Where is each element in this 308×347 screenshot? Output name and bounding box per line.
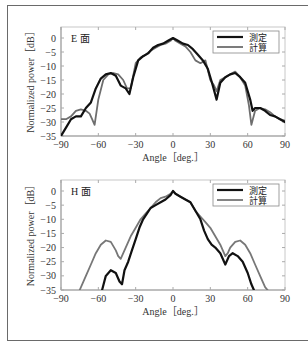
y-tick-label: −20 bbox=[40, 242, 56, 253]
x-tick-label: −30 bbox=[128, 139, 144, 150]
x-tick-label: −90 bbox=[53, 293, 69, 304]
y-tick-label: −20 bbox=[40, 89, 56, 100]
x-tick-label: −60 bbox=[91, 139, 107, 150]
y-tick-label: −5 bbox=[45, 200, 56, 211]
legend-label: 測定 bbox=[249, 32, 267, 43]
x-tick-label: 90 bbox=[280, 139, 290, 150]
x-tick-label: −90 bbox=[53, 139, 69, 150]
panel-label: H 面 bbox=[71, 186, 91, 197]
x-tick-label: −30 bbox=[128, 293, 144, 304]
e-plane-chart: 0−5−10−15−20−25−30−35−90−60−300306090Ang… bbox=[25, 26, 290, 163]
figure-canvas: 0−5−10−15−20−25−30−35−90−60−300306090Ang… bbox=[0, 0, 308, 347]
y-tick-label: −5 bbox=[45, 47, 56, 58]
x-axis-label: Angle［deg.］ bbox=[142, 306, 203, 317]
x-tick-label: 60 bbox=[243, 139, 253, 150]
x-tick-label: 30 bbox=[205, 293, 215, 304]
y-tick-label: −30 bbox=[40, 117, 56, 128]
legend-label: 計算 bbox=[249, 42, 267, 53]
legend: 測定計算 bbox=[213, 31, 279, 53]
y-axis-label: Normalized power［dB］ bbox=[25, 26, 36, 132]
x-tick-label: −60 bbox=[91, 293, 107, 304]
legend: 測定計算 bbox=[213, 184, 279, 206]
y-tick-label: 0 bbox=[51, 33, 56, 44]
x-tick-label: 0 bbox=[171, 139, 176, 150]
y-tick-label: 0 bbox=[51, 186, 56, 197]
y-tick-label: −25 bbox=[40, 103, 56, 114]
y-tick-label: −30 bbox=[40, 270, 56, 281]
x-tick-label: 60 bbox=[243, 293, 253, 304]
x-tick-label: 0 bbox=[171, 293, 176, 304]
h-plane-chart: 0−5−10−15−20−25−30−35−90−60−300306090Ang… bbox=[25, 180, 290, 317]
panel-label: E 面 bbox=[71, 33, 90, 44]
x-axis-label: Angle［deg.］ bbox=[142, 152, 203, 163]
x-tick-label: 30 bbox=[205, 139, 215, 150]
y-axis-label: Normalized power［dB］ bbox=[25, 180, 36, 286]
y-tick-label: −25 bbox=[40, 256, 56, 267]
x-tick-label: 90 bbox=[280, 293, 290, 304]
y-tick-label: −10 bbox=[40, 214, 56, 225]
y-tick-label: −15 bbox=[40, 228, 56, 239]
y-tick-label: −15 bbox=[40, 75, 56, 86]
y-tick-label: −10 bbox=[40, 61, 56, 72]
legend-label: 計算 bbox=[249, 195, 267, 206]
legend-label: 測定 bbox=[249, 185, 267, 196]
